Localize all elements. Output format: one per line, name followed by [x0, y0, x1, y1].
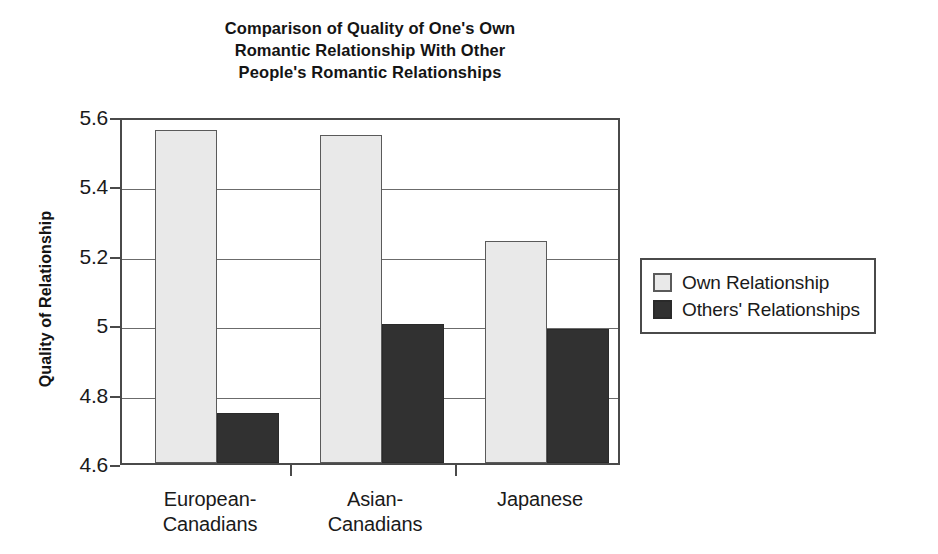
legend-label-own-relationship: Own Relationship: [682, 272, 829, 294]
plot-area: [120, 118, 620, 465]
x-category-label-asian-canadians-line-2: Canadians: [290, 512, 460, 537]
chart-legend: Own Relationship Others' Relationships: [640, 258, 876, 334]
chart-title-line-3: People's Romantic Relationships: [120, 62, 620, 84]
x-category-label-asian-canadians-line-1: Asian-: [290, 487, 460, 512]
y-tick-mark-4.8: [110, 396, 120, 398]
x-category-label-european-canadians: European- Canadians: [125, 487, 295, 537]
chart-title-line-1: Comparison of Quality of One's Own: [120, 18, 620, 40]
bar-japanese-others: [547, 329, 609, 463]
legend-item-others-relationships: Others' Relationships: [653, 296, 860, 323]
x-tick-mark-1: [290, 465, 292, 476]
bar-european-canadians-others: [217, 413, 279, 463]
legend-swatch-own-relationship: [653, 273, 672, 292]
chart-title: Comparison of Quality of One's Own Roman…: [120, 18, 620, 83]
x-category-label-asian-canadians: Asian- Canadians: [290, 487, 460, 537]
y-axis-tick-labels: 5.6 5.4 5.2 5 4.8 4.6: [38, 0, 108, 554]
x-category-label-european-canadians-line-1: European-: [125, 487, 295, 512]
y-tick-label-5.2: 5.2: [46, 245, 108, 269]
chart-title-line-2: Romantic Relationship With Other: [120, 40, 620, 62]
y-tick-mark-4.6: [110, 465, 120, 467]
bar-european-canadians-own: [155, 130, 217, 463]
x-category-label-japanese: Japanese: [455, 487, 625, 512]
x-category-label-european-canadians-line-2: Canadians: [125, 512, 295, 537]
y-tick-label-5.4: 5.4: [46, 175, 108, 199]
legend-item-own-relationship: Own Relationship: [653, 269, 860, 296]
legend-swatch-others-relationships: [653, 300, 672, 319]
x-category-label-japanese-line-1: Japanese: [455, 487, 625, 512]
legend-label-others-relationships: Others' Relationships: [682, 299, 860, 321]
y-tick-mark-5.4: [110, 187, 120, 189]
y-tick-label-5: 5: [46, 314, 108, 338]
bar-asian-canadians-own: [320, 135, 382, 463]
y-tick-mark-5.6: [110, 118, 120, 120]
y-tick-label-4.8: 4.8: [46, 384, 108, 408]
y-tick-mark-5: [110, 326, 120, 328]
bar-chart-figure: Comparison of Quality of One's Own Roman…: [0, 0, 938, 554]
y-tick-label-5.6: 5.6: [46, 106, 108, 130]
bar-japanese-own: [485, 241, 547, 463]
y-tick-mark-5.2: [110, 257, 120, 259]
bar-asian-canadians-others: [382, 324, 444, 463]
y-tick-label-4.6: 4.6: [46, 453, 108, 477]
x-tick-mark-2: [455, 465, 457, 476]
